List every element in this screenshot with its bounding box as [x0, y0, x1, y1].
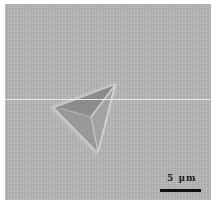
micrograph-image: 5 μm — [5, 4, 211, 200]
scale-bar — [160, 189, 201, 192]
scale-bar-label: 5 μm — [167, 173, 197, 183]
triangular-indent — [5, 4, 211, 200]
scan-line-artifact — [5, 99, 211, 100]
